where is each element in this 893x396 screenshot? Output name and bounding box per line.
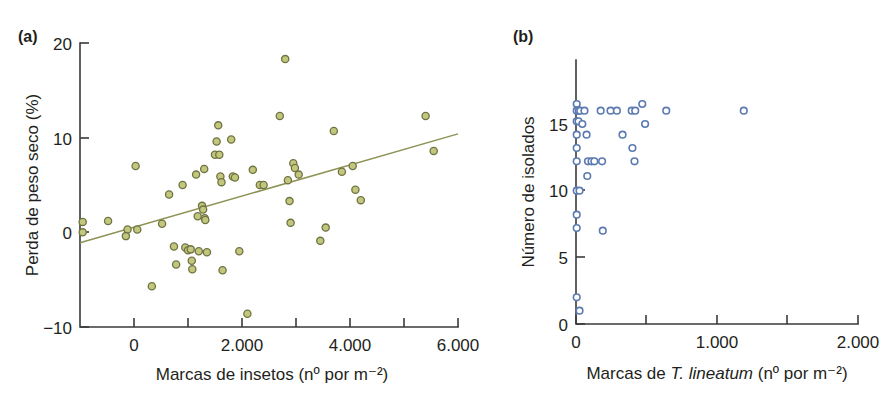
panel-a-x-tick-labels: 0 2.000 4.000 6.000 bbox=[129, 336, 479, 355]
data-point bbox=[287, 219, 294, 226]
data-point bbox=[236, 248, 243, 255]
data-point bbox=[430, 147, 437, 154]
panel-b-axis-lines bbox=[576, 60, 858, 324]
panel-b-tag: (b) bbox=[513, 28, 533, 45]
panel-a-data-points bbox=[79, 55, 437, 317]
panel-a-y-tick-labels: 20 10 0 −10 bbox=[43, 35, 72, 338]
data-point bbox=[338, 168, 345, 175]
data-point bbox=[632, 107, 639, 114]
data-point bbox=[244, 310, 251, 317]
panel-b-data-points bbox=[573, 101, 747, 314]
data-point bbox=[349, 162, 356, 169]
panel-a-tag: (a) bbox=[18, 28, 38, 45]
x-tick-label: 0 bbox=[571, 333, 580, 352]
data-point bbox=[284, 177, 291, 184]
data-point bbox=[573, 225, 580, 232]
panel-a-x-axis-title: Marcas de insetos (nº por m⁻²) bbox=[156, 365, 389, 384]
figure-root: (a) 20 10 0 −10 0 bbox=[0, 0, 893, 396]
data-point bbox=[286, 197, 293, 204]
data-point bbox=[295, 171, 302, 178]
data-point bbox=[581, 107, 588, 114]
data-point bbox=[228, 136, 235, 143]
x-tick-label: 1.000 bbox=[696, 333, 739, 352]
panel-b-x-title-prefix: Marcas de bbox=[586, 364, 670, 383]
panel-a-y-ticks bbox=[80, 43, 89, 327]
data-point bbox=[663, 107, 670, 114]
panel-a-x-ticks bbox=[134, 318, 458, 327]
panel-b-x-ticks bbox=[576, 315, 858, 324]
data-point bbox=[740, 107, 747, 114]
data-point bbox=[194, 213, 201, 220]
x-tick-label: 6.000 bbox=[437, 336, 480, 355]
data-point bbox=[317, 237, 324, 244]
data-point bbox=[573, 145, 580, 152]
panel-a: (a) 20 10 0 −10 0 bbox=[18, 28, 479, 384]
data-point bbox=[584, 173, 591, 180]
data-point bbox=[579, 121, 586, 128]
data-point bbox=[422, 112, 429, 119]
data-point bbox=[642, 121, 649, 128]
data-point bbox=[614, 107, 621, 114]
data-point bbox=[200, 206, 207, 213]
data-point bbox=[193, 171, 200, 178]
y-tick-label: 10 bbox=[549, 182, 568, 201]
data-point bbox=[276, 112, 283, 119]
data-point bbox=[282, 55, 289, 62]
data-point bbox=[357, 197, 364, 204]
y-tick-label: 5 bbox=[559, 249, 568, 268]
panel-b-y-axis-title: Número de isolados bbox=[519, 116, 538, 267]
data-point bbox=[104, 217, 111, 224]
data-point bbox=[132, 162, 139, 169]
data-point bbox=[591, 158, 598, 165]
data-point bbox=[576, 187, 583, 194]
data-point bbox=[352, 186, 359, 193]
data-point bbox=[218, 179, 225, 186]
data-point bbox=[148, 283, 155, 290]
data-point bbox=[573, 211, 580, 218]
data-point bbox=[179, 181, 186, 188]
data-point bbox=[173, 261, 180, 268]
data-point bbox=[260, 181, 267, 188]
y-tick-label: 20 bbox=[53, 35, 72, 54]
data-point bbox=[122, 233, 129, 240]
y-tick-label: 15 bbox=[549, 116, 568, 135]
data-point bbox=[599, 158, 606, 165]
data-point bbox=[219, 267, 226, 274]
data-point bbox=[202, 216, 209, 223]
data-point bbox=[631, 158, 638, 165]
x-tick-label: 0 bbox=[129, 336, 138, 355]
panel-b-y-tick-labels: 15 10 5 0 bbox=[549, 116, 568, 335]
data-point bbox=[291, 164, 298, 171]
y-tick-label: 0 bbox=[63, 224, 72, 243]
data-point bbox=[576, 307, 583, 314]
data-point bbox=[573, 294, 580, 301]
data-point bbox=[573, 158, 580, 165]
data-point bbox=[195, 248, 202, 255]
panel-b: (b) 15 10 5 0 0 1.000 2.0 bbox=[513, 28, 879, 383]
data-point bbox=[599, 227, 606, 234]
data-point bbox=[213, 138, 220, 145]
y-tick-label: −10 bbox=[43, 319, 72, 338]
data-point bbox=[216, 151, 223, 158]
data-point bbox=[203, 249, 210, 256]
data-point bbox=[619, 131, 626, 138]
data-point bbox=[215, 122, 222, 129]
panel-b-x-title-suffix: (nº por m⁻²) bbox=[753, 364, 848, 383]
data-point bbox=[188, 257, 195, 264]
panel-a-axis-lines bbox=[80, 43, 458, 327]
data-point bbox=[170, 243, 177, 250]
data-point bbox=[189, 266, 196, 273]
data-point bbox=[573, 131, 580, 138]
data-point bbox=[201, 165, 208, 172]
data-point bbox=[79, 218, 86, 225]
data-point bbox=[322, 224, 329, 231]
data-point bbox=[639, 101, 646, 108]
data-point bbox=[330, 127, 337, 134]
y-tick-label: 0 bbox=[559, 316, 568, 335]
panel-a-y-axis-title: Perda de peso seco (%) bbox=[23, 94, 42, 276]
panel-b-x-tick-labels: 0 1.000 2.000 bbox=[571, 333, 879, 352]
data-point bbox=[583, 131, 590, 138]
data-point bbox=[134, 226, 141, 233]
data-point bbox=[231, 174, 238, 181]
y-tick-label: 10 bbox=[53, 130, 72, 149]
